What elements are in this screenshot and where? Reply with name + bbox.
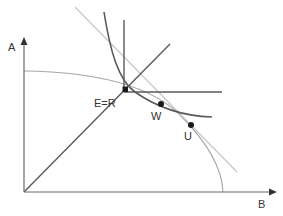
y-axis-label: A <box>8 42 15 53</box>
indifference-curve <box>104 12 212 117</box>
point-w-marker <box>158 101 164 107</box>
point-u-label: U <box>184 131 192 142</box>
point-e-r-label: E=R <box>94 98 116 109</box>
point-w-label: W <box>151 111 161 122</box>
y-axis-arrow-icon <box>21 37 28 45</box>
ray-45-degree <box>24 44 170 192</box>
point-u-marker <box>188 122 194 128</box>
point-e-r-marker <box>123 87 129 93</box>
x-axis-arrow-icon <box>269 189 277 196</box>
x-axis-label: B <box>258 199 265 210</box>
tangent-price-line <box>75 7 237 172</box>
diagram-canvas <box>0 0 283 216</box>
